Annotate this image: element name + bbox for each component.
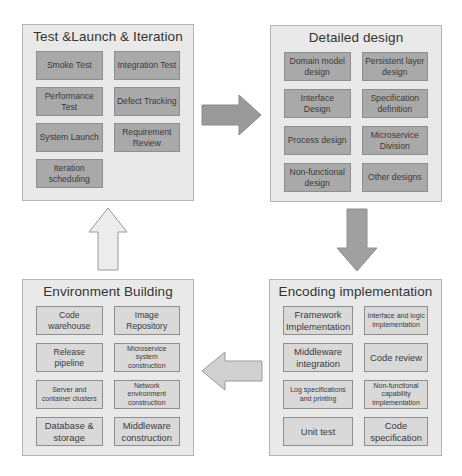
stage-item-middleware-construction: Middleware construction [114, 417, 181, 446]
stage-item-framework-implementation: Framework Implementation [283, 306, 353, 335]
panel-title: Environment Building [23, 284, 193, 299]
stage-item-defect-tracking: Defect Tracking [114, 87, 181, 116]
arrow-down-icon [336, 208, 378, 272]
stage-item-release-pipeline: Release pipeline [36, 343, 103, 372]
stage-item-smoke-test: Smoke Test [36, 51, 103, 80]
panel-title: Test &Launch & Iteration [23, 29, 193, 44]
stage-item-persistent-layer-design: Persistent layer design [362, 52, 429, 81]
stage-item-requirement-review: Requirement Review [114, 123, 181, 152]
panel-test-launch-iteration: Test &Launch & Iteration Smoke Test Inte… [22, 24, 194, 201]
stage-item-database-storage: Database & storage [36, 417, 103, 446]
stage-item-process-design: Process design [284, 126, 351, 155]
panel-detailed-design: Detailed design Domain model design Pers… [270, 25, 442, 202]
stage-item-microservice-system-construction: Microservice system construction [114, 343, 181, 372]
stage-item-image-repository: Image Repository [114, 306, 181, 335]
stage-item-middleware-integration: Middleware integration [283, 343, 353, 372]
arrow-right-icon [201, 94, 262, 136]
stage-item-code-specification: Code specification [364, 417, 428, 446]
panel-title: Detailed design [271, 30, 441, 45]
stage-item-specification-definition: Specification definition [362, 89, 429, 118]
stage-item-network-environment-construction: Network environment construction [114, 380, 181, 409]
stage-item-code-review: Code review [364, 343, 428, 372]
stage-item-other-designs: Other designs [362, 163, 429, 192]
stage-item-non-functional-capability-implementation: Non-functional capability implementation [364, 380, 428, 409]
stage-item-log-specifications-printing: Log specifications and printing [283, 380, 353, 409]
panel-environment-building: Environment Building Code warehouse Imag… [22, 279, 194, 456]
arrow-up-icon [88, 207, 128, 271]
stage-item-system-launch: System Launch [36, 123, 103, 152]
stage-item-unit-test: Unit test [283, 417, 353, 446]
stage-item-non-functional-design: Non-functional design [284, 163, 351, 192]
stage-item-integration-test: Integration Test [114, 51, 181, 80]
arrow-left-icon [201, 351, 263, 391]
stage-item-server-container-clusters: Server and container clusters [36, 380, 103, 409]
stage-item-domain-model-design: Domain model design [284, 52, 351, 81]
panel-encoding-implementation: Encoding implementation Framework Implem… [269, 279, 442, 456]
stage-item-code-warehouse: Code warehouse [36, 306, 103, 335]
stage-item-microservice-division: Microservice Division [362, 126, 429, 155]
stage-item-iteration-scheduling: Iteration scheduling [36, 159, 103, 188]
panel-title: Encoding implementation [270, 284, 441, 299]
stage-item-interface-design: Interface Design [284, 89, 351, 118]
stage-item-performance-test: Performance Test [36, 87, 103, 116]
stage-item-interface-logic-implementation: Interface and logic implementation [364, 306, 428, 335]
